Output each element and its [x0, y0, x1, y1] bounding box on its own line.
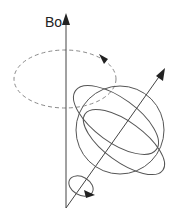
precession-arrowhead-icon: [99, 54, 108, 64]
spin-precession-diagram: [0, 0, 177, 221]
precession-path: [14, 50, 116, 108]
spin-axis: [66, 74, 161, 208]
field-arrowhead-icon: [62, 13, 70, 25]
nucleus-sphere: [63, 73, 175, 187]
field-label: Bo: [45, 14, 62, 30]
